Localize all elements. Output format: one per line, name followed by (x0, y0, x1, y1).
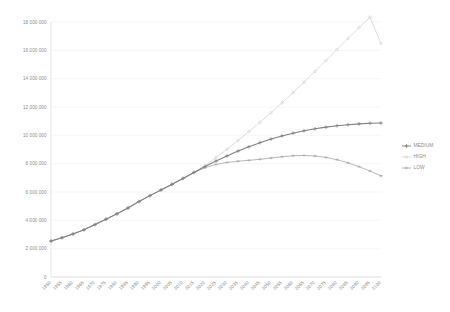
legend-item-high[interactable]: HIGH (402, 154, 426, 159)
series-line-medium (51, 123, 381, 241)
y-tick-label: 14 000 000 (23, 76, 47, 81)
y-tick-label: 4 000 000 (26, 218, 47, 223)
x-tick-label: 2095 (360, 280, 371, 291)
series-low (49, 154, 382, 242)
x-tick-label: 2060 (283, 280, 294, 291)
x-tick-label: 2050 (261, 280, 272, 291)
x-tick-label: 1955 (52, 280, 63, 291)
series-line-high (51, 17, 381, 241)
x-tick-label: 2055 (272, 280, 283, 291)
x-tick-label: 1970 (85, 280, 96, 291)
series-high (50, 16, 383, 242)
axes (51, 22, 381, 277)
legend-item-label: MEDIUM (414, 143, 434, 148)
x-tick-label: 2080 (327, 280, 338, 291)
y-tick-label: 0 (44, 275, 47, 280)
x-tick-label: 2075 (316, 280, 327, 291)
y-tick-label: 8 000 000 (26, 161, 47, 166)
y-tick-label: 12 000 000 (23, 105, 47, 110)
x-tick-label: 2015 (184, 280, 195, 291)
x-tick-label: 2000 (151, 280, 162, 291)
x-tick-label: 1980 (107, 280, 118, 291)
x-tick-label: 1960 (63, 280, 74, 291)
x-tick-label: 2070 (305, 280, 316, 291)
y-tick-label: 16 000 000 (23, 48, 47, 53)
x-tick-label: 2025 (206, 280, 217, 291)
x-tick-label: 2010 (173, 280, 184, 291)
x-tick-label: 2085 (338, 280, 349, 291)
y-tick-label: 2 000 000 (26, 246, 47, 251)
y-tick-label: 6 000 000 (26, 190, 47, 195)
y-tick-label: 18 000 000 (23, 20, 47, 25)
x-tick-label: 1975 (96, 280, 107, 291)
series-line-low (51, 155, 381, 241)
chart-legend: MEDIUMHIGHLOW (402, 143, 433, 170)
x-tick-label: 1985 (118, 280, 129, 291)
x-tick-label: 2090 (349, 280, 360, 291)
legend-item-label: LOW (414, 165, 426, 170)
population-projection-chart: 02 000 0004 000 0006 000 0008 000 00010 … (0, 0, 450, 312)
series-medium (49, 121, 383, 243)
x-tick-label: 1950 (41, 280, 52, 291)
x-tick-label: 1965 (74, 280, 85, 291)
x-tick-label: 2100 (371, 280, 382, 291)
x-tick-label: 2030 (217, 280, 228, 291)
y-axis-tick-labels: 02 000 0004 000 0006 000 0008 000 00010 … (23, 20, 47, 280)
legend-item-medium[interactable]: MEDIUM (402, 143, 433, 148)
x-tick-label: 2045 (250, 280, 261, 291)
x-tick-label: 2005 (162, 280, 173, 291)
legend-item-label: HIGH (414, 154, 427, 159)
x-tick-label: 2040 (239, 280, 250, 291)
chart-canvas: 02 000 0004 000 0006 000 0008 000 00010 … (0, 0, 450, 312)
x-tick-label: 1995 (140, 280, 151, 291)
x-tick-label: 2035 (228, 280, 239, 291)
gridlines (51, 22, 381, 277)
legend-item-low[interactable]: LOW (402, 165, 425, 170)
y-tick-label: 10 000 000 (23, 133, 47, 138)
x-tick-label: 2065 (294, 280, 305, 291)
x-axis-tick-labels: 1950195519601965197019751980198519901995… (41, 280, 382, 291)
data-series (49, 16, 383, 243)
x-tick-label: 1990 (129, 280, 140, 291)
x-tick-label: 2020 (195, 280, 206, 291)
